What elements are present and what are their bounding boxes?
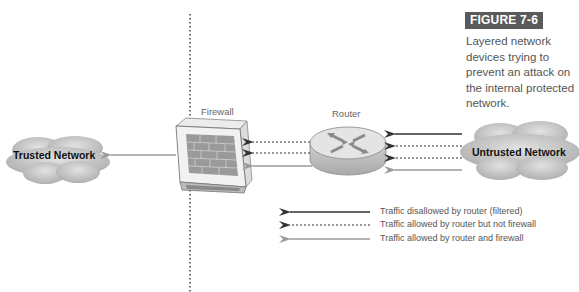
flows-router-to-firewall [253, 142, 312, 166]
figure-caption: Layered network devices trying to preven… [466, 34, 578, 112]
firewall-label: Firewall [201, 106, 234, 117]
legend-item-disallowed: Traffic disallowed by router (filtered) [380, 206, 523, 216]
router-label: Router [332, 108, 361, 119]
router-icon [310, 127, 386, 175]
legend-item-allowed-router-not-firewall: Traffic allowed by router but not firewa… [380, 219, 536, 229]
figure-label: FIGURE 7-6 [465, 12, 543, 29]
legend-arrows [290, 212, 370, 239]
untrusted-network-label: Untrusted Network [472, 146, 566, 158]
legend-item-allowed-both: Traffic allowed by router and firewall [380, 233, 524, 243]
flows-untrusted-to-router [395, 134, 462, 170]
firewall-brick-wall-icon [176, 118, 252, 193]
trusted-network-label: Trusted Network [13, 149, 95, 161]
